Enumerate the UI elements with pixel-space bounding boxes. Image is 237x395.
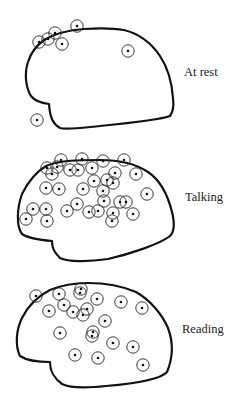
circled-dot-marker (40, 182, 52, 194)
circled-dot-marker (53, 183, 65, 195)
circled-dot-marker (127, 341, 139, 353)
circled-dot-marker (127, 208, 139, 220)
circled-dot-marker (76, 153, 88, 165)
circled-dot-marker (53, 288, 65, 300)
circled-dot-marker (120, 196, 132, 208)
circled-dot-marker (72, 164, 84, 176)
circled-dot-marker (136, 302, 148, 314)
circled-dot-marker (40, 203, 52, 215)
activity-markers-reading (30, 283, 149, 371)
circled-dot-marker (91, 293, 103, 305)
circled-dot-marker (86, 162, 98, 174)
circled-dot-marker (92, 205, 104, 217)
circled-dot-marker (115, 296, 127, 308)
circled-dot-marker (71, 198, 83, 210)
circled-dot-marker (58, 299, 70, 311)
circled-dot-marker (137, 359, 149, 371)
circled-dot-marker (31, 114, 43, 126)
label-talking: Talking (185, 190, 224, 204)
activity-markers-at-rest (31, 20, 134, 126)
circled-dot-marker (122, 45, 134, 57)
label-reading: Reading (182, 322, 224, 336)
circled-dot-marker (107, 337, 119, 349)
circled-dot-marker (141, 188, 153, 200)
circled-dot-marker (77, 183, 89, 195)
circled-dot-marker (92, 352, 104, 364)
brain-activity-figure: At rest Talking Reading (0, 0, 237, 395)
circled-dot-marker (41, 215, 53, 227)
circled-dot-marker (88, 175, 100, 187)
brain-outline-reading (17, 283, 172, 387)
circled-dot-marker (43, 305, 55, 317)
circled-dot-marker (83, 206, 95, 218)
panel-reading: Reading (17, 283, 225, 388)
brain-outline-at-rest (26, 28, 174, 128)
circled-dot-marker (106, 215, 118, 227)
circled-dot-marker (33, 36, 45, 48)
circled-dot-marker (99, 315, 111, 327)
circled-dot-marker (55, 154, 67, 166)
circled-dot-marker (118, 154, 130, 166)
panel-at-rest: At rest (26, 20, 218, 129)
circled-dot-marker (54, 327, 66, 339)
panel-talking: Talking (18, 153, 224, 261)
circled-dot-marker (20, 213, 32, 225)
label-at-rest: At rest (184, 65, 218, 79)
circled-dot-marker (130, 168, 142, 180)
circled-dot-marker (64, 164, 76, 176)
circled-dot-marker (69, 349, 81, 361)
circled-dot-marker (56, 38, 68, 50)
